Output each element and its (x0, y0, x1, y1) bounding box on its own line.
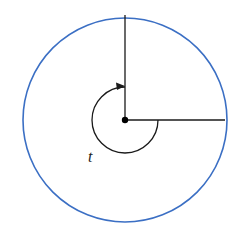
unit-circle-diagram: t (0, 0, 233, 240)
angle-label: t (88, 148, 93, 165)
arrowhead-icon (116, 83, 125, 91)
diagram-canvas: t (0, 0, 233, 240)
center-point (122, 117, 128, 123)
